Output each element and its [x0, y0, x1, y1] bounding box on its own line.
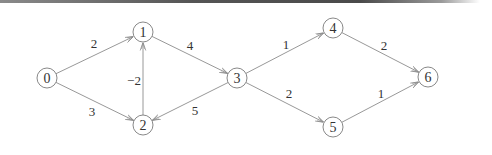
node-label: 3	[234, 71, 241, 86]
node-label: 4	[330, 21, 337, 36]
node-label: 2	[140, 118, 147, 133]
edge-weight-label: 5	[192, 103, 199, 118]
edge-3-to-5	[246, 83, 324, 123]
node-label: 0	[44, 71, 51, 86]
edge-weight-label: 3	[89, 104, 96, 119]
node-0: 0	[37, 68, 57, 88]
edge-weight-label: 2	[286, 86, 293, 101]
node-4: 4	[323, 18, 343, 38]
node-5: 5	[323, 117, 343, 137]
node-label: 6	[425, 70, 432, 85]
edge-weight-label: 1	[378, 86, 385, 101]
graph-diagram: 23−2451221 0123456	[0, 0, 492, 155]
node-6: 6	[418, 67, 438, 87]
edge-weight-label: 2	[91, 36, 98, 51]
edge-3-to-2	[152, 83, 228, 121]
node-1: 1	[133, 22, 153, 42]
edge-weight-label: −2	[127, 73, 141, 88]
node-2: 2	[133, 115, 153, 135]
node-label: 1	[140, 25, 147, 40]
edge-weight-label: 2	[381, 38, 388, 53]
edge-weight-label: 4	[187, 38, 194, 53]
node-3: 3	[227, 68, 247, 88]
node-label: 5	[330, 120, 337, 135]
edge-weight-label: 1	[283, 37, 290, 52]
